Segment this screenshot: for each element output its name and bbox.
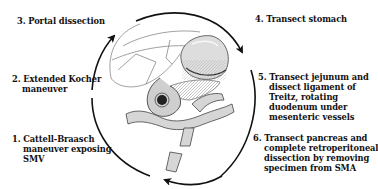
step-number: 3. — [17, 16, 25, 26]
stomach-drawing — [181, 36, 228, 80]
step-text-line: Transect pancreas and — [264, 133, 367, 143]
step-text-line: Treitz, rotating — [258, 92, 369, 102]
step-4-label: 4. Transect stomach — [255, 14, 347, 24]
step-5-label: 5. Transect jejunum and dissect ligament… — [258, 72, 369, 122]
step-number: 4. — [255, 14, 263, 24]
step-3-label: 3. Portal dissection — [17, 16, 105, 26]
step-text-line: Transect jejunum and — [269, 72, 368, 82]
step-1-label: 1. Cattell-Braasch maneuver exposing SMV — [12, 134, 111, 164]
step-text-line: dissection by removing — [253, 153, 378, 163]
step-number: 5. — [258, 72, 266, 82]
step-2-label: 2. Extended Kocher maneuver — [12, 74, 101, 94]
step-text-line: maneuver — [12, 84, 101, 94]
arrow-right-side — [221, 70, 255, 176]
step-6-label: 6. Transect pancreas and complete retrop… — [253, 133, 378, 173]
step-number: 1. — [12, 134, 20, 144]
step-number: 2. — [12, 74, 20, 84]
step-text-line: complete retroperitoneal — [253, 143, 378, 153]
arrow-6-to-1 — [165, 176, 222, 185]
step-text-line: SMV — [12, 154, 111, 164]
step-text-line: Transect stomach — [266, 14, 347, 24]
step-text-line: dissect ligament of — [258, 82, 369, 92]
step-text-line: duodenum under — [258, 102, 369, 112]
step-text-line: maneuver exposing — [12, 144, 111, 154]
step-text-line: specimen from SMA — [253, 163, 378, 173]
step-number: 6. — [253, 133, 261, 143]
step-text-line: mesenteric vessels — [258, 112, 369, 122]
step-text-line: Portal dissection — [28, 16, 105, 26]
step-text-line: Extended Kocher — [23, 74, 101, 84]
step-text-line: Cattell-Braasch — [23, 134, 94, 144]
